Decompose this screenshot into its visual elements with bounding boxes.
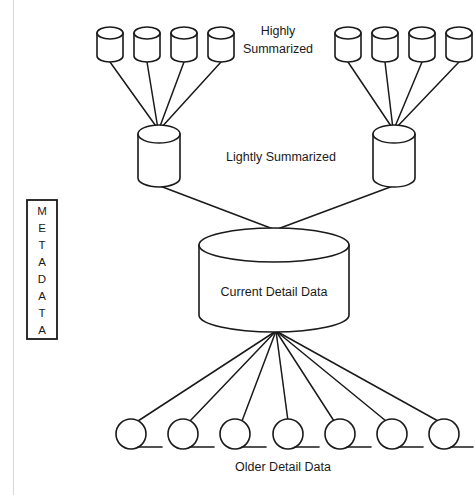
cylinder-shape	[335, 27, 361, 62]
connector-line	[147, 62, 158, 129]
tape-reel-shape	[168, 419, 214, 449]
connector-line	[276, 331, 288, 421]
cylinder-shape	[171, 27, 197, 62]
highly-summarized-right-cylinders	[335, 27, 472, 62]
current-detail-data-label: Current Detail Data	[221, 285, 328, 299]
cylinder-shape	[446, 27, 472, 62]
cylinder-shape	[373, 125, 415, 187]
lightly-summarized-label: Lightly Summarized	[226, 150, 336, 164]
connector-line	[395, 62, 459, 129]
metadata-letter: T	[38, 239, 45, 251]
metadata-letter: D	[38, 273, 46, 285]
connector-line	[110, 62, 158, 129]
connector-line	[190, 331, 276, 421]
highly-summarized-label-line1: Highly	[261, 24, 296, 38]
connectors-center-to-reels	[138, 331, 438, 421]
connector-line	[159, 62, 184, 129]
connector-line	[394, 62, 422, 129]
older-detail-data-label: Older Detail Data	[235, 460, 331, 474]
highly-summarized-left-cylinders	[97, 27, 234, 62]
cylinder-shape	[208, 27, 234, 62]
connector-line	[276, 331, 386, 421]
metadata-letter: A	[38, 256, 46, 268]
metadata-letter: E	[38, 222, 46, 234]
tape-reel-shape	[325, 419, 371, 449]
metadata-letter: T	[38, 307, 45, 319]
connector-line	[242, 331, 276, 421]
connector-line	[276, 331, 438, 421]
tape-reel-shape	[220, 419, 266, 449]
diagram-canvas: Highly Summarized Lightly Summarized Cur…	[0, 0, 475, 495]
tape-reel-shape	[273, 419, 319, 449]
metadata-letter: A	[38, 324, 46, 336]
data-warehouse-diagram: Highly Summarized Lightly Summarized Cur…	[0, 0, 475, 495]
highly-summarized-label-line2: Summarized	[243, 42, 313, 56]
connectors-left-group	[110, 62, 221, 129]
cylinder-shape	[97, 27, 123, 62]
older-detail-data-reels	[116, 419, 473, 449]
cylinder-shape	[409, 27, 435, 62]
tape-reel-shape	[377, 419, 423, 449]
connector-line	[160, 62, 221, 129]
metadata-box: M E T A D A T A	[27, 200, 57, 339]
tape-reel-shape	[429, 419, 473, 449]
connector-line	[276, 331, 334, 421]
tape-reel-shape	[116, 419, 162, 449]
metadata-letter: M	[37, 205, 47, 217]
metadata-letter: A	[38, 290, 46, 302]
connectors-right-group	[348, 62, 459, 129]
current-detail-data-cylinder	[199, 228, 349, 332]
cylinder-shape	[138, 125, 180, 187]
connector-line	[138, 331, 276, 421]
cylinder-shape	[134, 27, 160, 62]
cylinder-shape	[372, 27, 398, 62]
